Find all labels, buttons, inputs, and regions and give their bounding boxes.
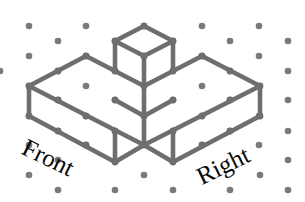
vertex-joint xyxy=(257,113,264,120)
vertex-joint xyxy=(199,113,206,120)
vertex-joint xyxy=(199,142,206,149)
vertex-joint xyxy=(112,68,119,75)
grid-dot xyxy=(257,172,264,179)
vertex-joint xyxy=(55,128,62,135)
vertex-joint xyxy=(227,128,234,135)
figure-canvas: Front Right xyxy=(0,0,305,202)
grid-dot xyxy=(26,53,33,60)
solid-edge-slab-top xyxy=(173,56,202,71)
solid-edge-slab-top xyxy=(144,100,173,116)
solid-edge-slab-top xyxy=(115,71,144,86)
isometric-solid-svg xyxy=(0,0,305,202)
solid-edge-slab-top xyxy=(144,71,173,86)
vertex-joint xyxy=(170,97,177,104)
vertex-joint xyxy=(26,83,33,90)
vertex-joint xyxy=(112,97,119,104)
vertex-joint xyxy=(170,128,177,135)
grid-dot xyxy=(256,142,263,149)
grid-dot xyxy=(170,187,177,194)
solid-edge-top-cube xyxy=(115,26,144,41)
solid-edge-top-cube xyxy=(144,26,173,41)
solid-edge-slab-front xyxy=(115,145,144,162)
grid-dot xyxy=(285,68,292,75)
vertex-joint xyxy=(170,38,177,45)
vertex-joint xyxy=(26,113,33,120)
grid-dot xyxy=(112,187,119,194)
vertex-joint xyxy=(112,159,119,166)
solid-edge-slab-front xyxy=(144,145,173,162)
solid-edge-slab-top xyxy=(86,56,115,71)
vertex-joint xyxy=(170,68,177,75)
grid-dot xyxy=(55,187,62,194)
vertex-joint xyxy=(83,113,90,120)
vertex-joint xyxy=(227,97,234,104)
vertex-joint xyxy=(141,142,148,149)
grid-dot xyxy=(227,38,234,45)
grid-dot xyxy=(141,172,148,179)
vertex-joint xyxy=(227,68,234,75)
grid-dot xyxy=(55,38,62,45)
grid-dot xyxy=(199,83,206,90)
solid-edge-top-cube xyxy=(115,41,144,56)
grid-dot xyxy=(0,68,3,75)
solid-edges-layer xyxy=(29,26,260,162)
grid-dot xyxy=(199,23,206,30)
vertex-joint xyxy=(112,38,119,45)
grid-dot xyxy=(83,23,90,30)
vertex-joint xyxy=(257,83,264,90)
grid-dot xyxy=(285,97,292,104)
vertex-joint xyxy=(141,83,148,90)
vertex-joint xyxy=(83,53,90,60)
grid-dot xyxy=(285,157,292,164)
vertex-joint xyxy=(199,53,206,60)
vertex-joint xyxy=(112,128,119,135)
vertex-joint xyxy=(141,53,148,60)
grid-dot xyxy=(285,38,292,45)
grid-dot xyxy=(256,23,263,30)
vertex-joint xyxy=(55,97,62,104)
grid-dot xyxy=(256,53,263,60)
grid-dot xyxy=(285,187,292,194)
vertex-joint xyxy=(55,68,62,75)
vertex-joint xyxy=(170,159,177,166)
solid-edge-slab-top xyxy=(115,100,144,116)
grid-dot xyxy=(227,187,234,194)
solid-edge-top-cube xyxy=(144,41,173,56)
vertex-joint xyxy=(83,142,90,149)
grid-dot xyxy=(83,83,90,90)
vertex-joint xyxy=(141,23,148,30)
grid-dot xyxy=(285,128,292,135)
grid-dot xyxy=(26,23,33,30)
grid-dot xyxy=(26,172,33,179)
vertex-joint xyxy=(141,113,148,120)
